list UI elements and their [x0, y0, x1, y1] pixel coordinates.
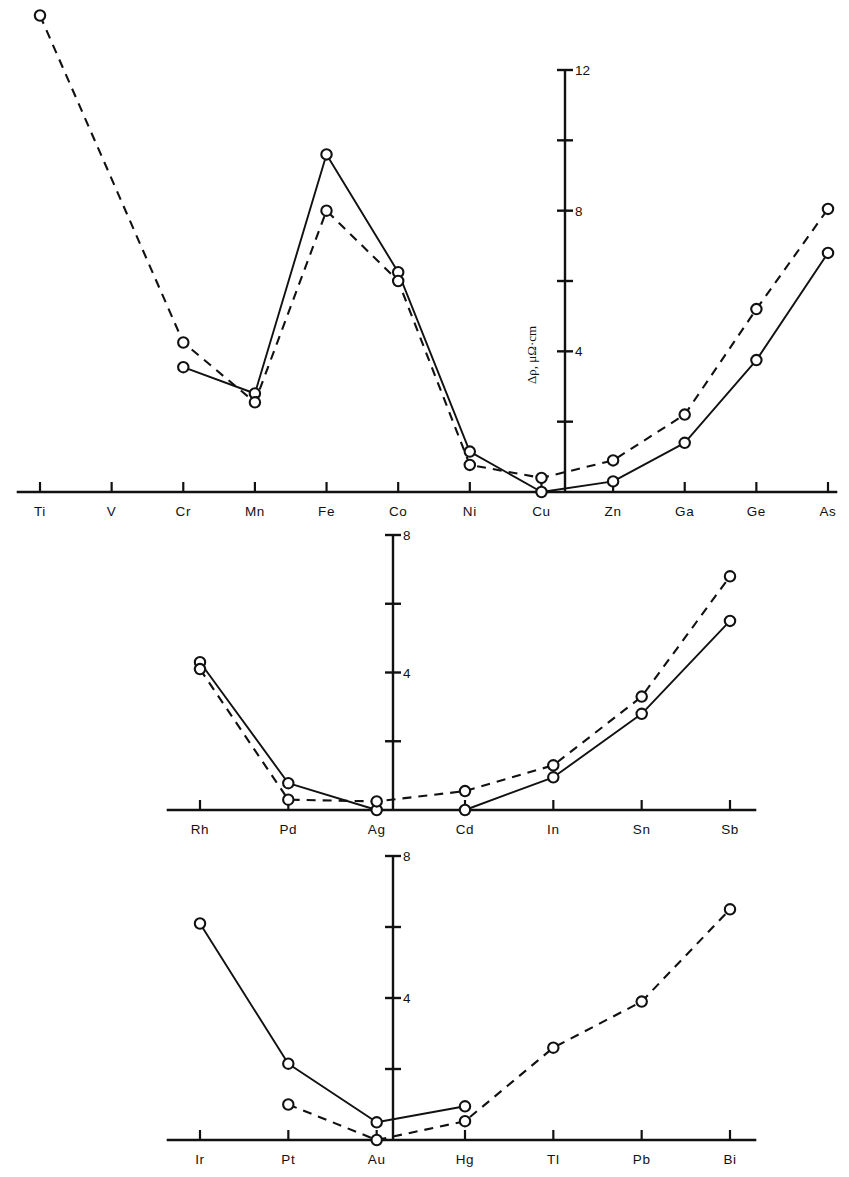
x-axis-label-ag: Ag: [368, 822, 386, 837]
bottom-series: [195, 904, 735, 1145]
middle-y-axis-labels: 48: [403, 528, 411, 681]
series-line-solid: [200, 924, 465, 1123]
data-point-dashed-pt: [283, 1099, 293, 1109]
data-point-dashed-cu: [536, 473, 546, 483]
data-point-dashed-hg: [460, 1116, 470, 1126]
x-axis-label-tl: Tl: [547, 1152, 559, 1167]
data-point-solid-zn: [608, 476, 618, 486]
y-axis-label-12: 12: [575, 63, 590, 78]
series-line-dashed: [200, 576, 730, 801]
series-line-solid: [200, 621, 730, 810]
figure-container: TiVCrMnFeCoNiCuZnGaGeAs 4812 Δρ, μΩ·cm R…: [0, 0, 849, 1177]
x-axis-label-rh: Rh: [191, 822, 209, 837]
middle-y-axis: 48: [385, 528, 411, 810]
y-axis-label-8: 8: [403, 849, 411, 864]
top-series: [35, 10, 833, 497]
data-point-dashed-ag: [372, 796, 382, 806]
chart-panel-bottom: IrPtAuHgTlPbBi 48: [0, 840, 849, 1177]
data-point-dashed-bi: [725, 904, 735, 914]
data-point-solid-as: [823, 248, 833, 258]
data-point-solid-pd: [283, 778, 293, 788]
bottom-x-axis: IrPtAuHgTlPbBi: [168, 1130, 755, 1167]
chart-panel-middle: RhPdAgCdInSnSb 48: [0, 510, 849, 840]
top-y-axis-labels: 4812: [575, 63, 590, 359]
data-point-dashed-zn: [608, 455, 618, 465]
data-point-dashed-as: [823, 204, 833, 214]
y-axis-label-8: 8: [403, 528, 411, 543]
x-axis-label-pt: Pt: [281, 1152, 295, 1167]
x-axis-label-au: Au: [368, 1152, 386, 1167]
x-axis-label-cd: Cd: [456, 822, 474, 837]
data-point-dashed-co: [393, 276, 403, 286]
data-point-dashed-ti: [35, 10, 45, 20]
data-point-solid-fe: [321, 149, 331, 159]
data-point-dashed-mn: [250, 397, 260, 407]
top-x-ticks: [40, 482, 828, 492]
data-point-solid-ni: [465, 446, 475, 456]
data-point-dashed-rh: [195, 664, 205, 674]
top-y-axis: 4812 Δρ, μΩ·cm: [524, 63, 590, 492]
bottom-y-axis-labels: 48: [403, 849, 411, 1006]
data-point-dashed-sb: [725, 571, 735, 581]
data-point-solid-cu: [536, 487, 546, 497]
data-point-dashed-cd: [460, 786, 470, 796]
data-point-solid-pt: [283, 1059, 293, 1069]
middle-x-axis-labels: RhPdAgCdInSnSb: [191, 822, 739, 837]
data-point-dashed-tl: [548, 1043, 558, 1053]
top-y-axis-title: Δρ, μΩ·cm: [524, 326, 539, 384]
x-axis-label-sb: Sb: [721, 822, 739, 837]
x-axis-label-hg: Hg: [456, 1152, 474, 1167]
data-point-solid-ir: [195, 918, 205, 928]
data-point-dashed-ga: [680, 409, 690, 419]
series-line-dashed: [40, 16, 828, 478]
data-point-solid-ge: [751, 355, 761, 365]
data-point-solid-sb: [725, 616, 735, 626]
chart-panel-top: TiVCrMnFeCoNiCuZnGaGeAs 4812 Δρ, μΩ·cm: [0, 0, 849, 520]
bottom-x-axis-labels: IrPtAuHgTlPbBi: [195, 1152, 736, 1167]
data-point-dashed-in: [548, 760, 558, 770]
bottom-x-ticks: [200, 1130, 730, 1140]
bottom-y-axis: 48: [385, 849, 411, 1140]
data-point-solid-cr: [178, 362, 188, 372]
y-axis-label-4: 4: [403, 666, 411, 681]
data-point-dashed-pd: [283, 795, 293, 805]
x-axis-label-pd: Pd: [279, 822, 297, 837]
data-point-dashed-pb: [637, 996, 647, 1006]
y-axis-label-4: 4: [575, 344, 583, 359]
x-axis-label-in: In: [547, 822, 559, 837]
data-point-dashed-ni: [465, 460, 475, 470]
data-point-dashed-au: [372, 1135, 382, 1145]
x-axis-label-sn: Sn: [633, 822, 651, 837]
data-point-solid-cd: [460, 805, 470, 815]
x-axis-label-pb: Pb: [633, 1152, 651, 1167]
data-point-solid-ga: [680, 438, 690, 448]
y-axis-label-8: 8: [575, 204, 583, 219]
data-point-dashed-sn: [637, 691, 647, 701]
x-axis-label-ir: Ir: [195, 1152, 204, 1167]
data-point-solid-in: [548, 772, 558, 782]
series-line-dashed: [288, 909, 730, 1140]
x-axis-label-bi: Bi: [723, 1152, 736, 1167]
data-point-solid-hg: [460, 1101, 470, 1111]
data-point-dashed-fe: [321, 206, 331, 216]
data-point-solid-au: [372, 1117, 382, 1127]
data-point-solid-sn: [637, 709, 647, 719]
middle-series: [195, 571, 735, 815]
data-point-dashed-cr: [178, 337, 188, 347]
data-point-dashed-ge: [751, 304, 761, 314]
series-line-solid: [183, 154, 828, 492]
y-axis-label-4: 4: [403, 991, 411, 1006]
